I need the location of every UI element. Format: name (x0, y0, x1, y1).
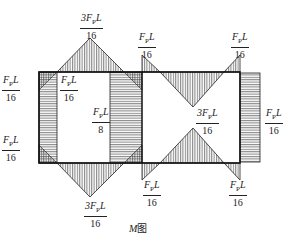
label-middle-strip: FPL 8 (92, 106, 110, 135)
label-right-side: FPL 16 (265, 107, 283, 136)
right-bottom-moment (142, 128, 240, 180)
right-top-moment (142, 55, 240, 107)
label-top-left-apex: 3FPL 16 (80, 12, 103, 41)
label-right-center: 3FPL 16 (196, 107, 219, 136)
middle-strip-hatch (110, 72, 142, 163)
label-left-outer-top: FPL 16 (2, 74, 20, 103)
right-side-hatch (240, 73, 260, 162)
label-left-inner-top: FPL 16 (60, 74, 78, 103)
label-right-bottom-left: FPL 16 (143, 179, 161, 208)
diagram-caption: M图 (129, 220, 147, 235)
label-right-top-left: FPL 16 (138, 31, 156, 60)
label-right-top-right: FPL 16 (231, 31, 249, 60)
label-left-outer-bottom: FPL 16 (2, 134, 20, 163)
label-bottom-left-apex: 3FPL 16 (84, 200, 107, 229)
label-right-bottom-right: FPL 16 (229, 179, 247, 208)
